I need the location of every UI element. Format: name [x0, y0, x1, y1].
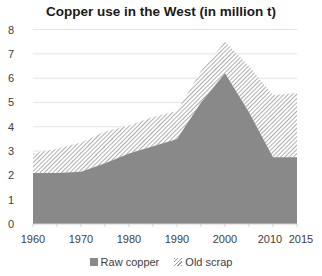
- area-series: [33, 42, 297, 227]
- x-tick-label: 1980: [117, 233, 141, 245]
- legend-item-raw-copper: Raw copper: [90, 256, 160, 268]
- x-tick-label: 1990: [165, 233, 189, 245]
- raw-copper-swatch-icon: [90, 258, 98, 266]
- y-tick-label: 1: [8, 194, 14, 206]
- x-tick-label: 2000: [213, 233, 237, 245]
- y-tick-label: 4: [8, 121, 14, 133]
- legend: Raw copper Old scrap: [0, 256, 322, 268]
- y-tick-label: 2: [8, 169, 14, 181]
- y-axis-ticks: 012345678: [8, 24, 14, 231]
- x-tick-label: 1960: [21, 233, 45, 245]
- y-tick-label: 8: [8, 24, 14, 36]
- y-tick-label: 7: [8, 48, 14, 60]
- x-axis-ticks: 1960197019801990200020102015: [21, 233, 313, 245]
- y-tick-label: 6: [8, 72, 14, 84]
- chart-plot: 012345678 1960197019801990200020102015: [0, 0, 322, 276]
- x-tick-label: 1970: [69, 233, 93, 245]
- y-tick-label: 3: [8, 145, 14, 157]
- chart-container: Copper use in the West (in million t) 01…: [0, 0, 322, 276]
- old-scrap-swatch-icon: [174, 258, 182, 266]
- legend-label-old-scrap: Old scrap: [185, 256, 232, 268]
- x-tick-label: 2010: [258, 233, 282, 245]
- legend-label-raw-copper: Raw copper: [101, 256, 160, 268]
- legend-item-old-scrap: Old scrap: [174, 256, 232, 268]
- x-tick-label: 2015: [289, 233, 313, 245]
- y-tick-label: 5: [8, 96, 14, 108]
- y-tick-label: 0: [8, 218, 14, 230]
